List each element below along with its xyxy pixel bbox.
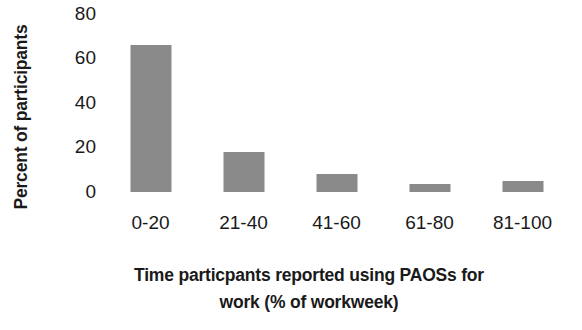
x-tick-label: 41-60	[290, 210, 383, 236]
bar[interactable]	[223, 152, 264, 192]
y-axis-title: Percent of participants	[8, 2, 34, 232]
y-tick-label: 80	[40, 3, 96, 25]
x-axis-title-line-1: Time particpants reported using PAOSs fo…	[56, 262, 562, 289]
bar-slot	[197, 14, 290, 192]
bar-slot	[104, 14, 197, 192]
plot-area	[104, 14, 572, 192]
y-tick-label: 20	[40, 136, 96, 158]
y-tick-label: 40	[40, 92, 96, 114]
y-tick-label: 0	[40, 181, 96, 203]
bar-slot	[290, 14, 383, 192]
y-axis-tick-labels: 80 60 40 20 0	[40, 0, 96, 200]
bar-chart-figure: Percent of participants 80 60 40 20 0 0-…	[0, 0, 582, 330]
bar-slot	[476, 14, 569, 192]
bar[interactable]	[409, 184, 450, 192]
bar[interactable]	[130, 45, 171, 192]
y-tick-label: 60	[40, 47, 96, 69]
bar[interactable]	[316, 174, 357, 192]
x-tick-label: 0-20	[104, 210, 197, 236]
x-tick-label: 61-80	[383, 210, 476, 236]
x-axis-title-line-2: work (% of workweek)	[56, 289, 562, 316]
x-axis-title: Time particpants reported using PAOSs fo…	[56, 262, 562, 316]
bar[interactable]	[502, 181, 543, 192]
x-tick-label: 81-100	[476, 210, 569, 236]
x-tick-label: 21-40	[197, 210, 290, 236]
bar-slot	[383, 14, 476, 192]
x-axis-tick-labels: 0-20 21-40 41-60 61-80 81-100	[104, 210, 572, 240]
